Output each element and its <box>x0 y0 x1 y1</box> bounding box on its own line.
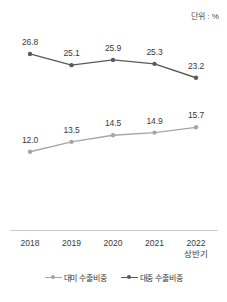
line-marker-icon <box>121 274 138 281</box>
data-point <box>28 52 32 56</box>
x-axis-tick: 2018 <box>21 238 40 249</box>
chart-legend: 대미 수출비중대중 수출비중 <box>0 272 227 283</box>
chart-container: 단위 : % 26.825.125.925.323.2 12.013.514.5… <box>0 0 227 302</box>
data-point <box>152 62 156 66</box>
data-label: 25.3 <box>146 47 162 57</box>
data-label: 26.8 <box>22 37 38 47</box>
data-label: 12.0 <box>22 135 38 145</box>
data-label: 14.9 <box>146 116 162 126</box>
data-point <box>69 140 73 144</box>
legend-item[interactable]: 대중 수출비중 <box>121 272 183 283</box>
x-axis-tick: 2021 <box>145 238 164 249</box>
series-markers-us <box>28 125 198 154</box>
data-point <box>194 76 198 80</box>
x-axis-tick: 2020 <box>104 238 123 249</box>
data-label: 25.9 <box>105 43 121 53</box>
data-point <box>194 125 198 129</box>
data-point <box>69 63 73 67</box>
series-line-us <box>30 127 196 151</box>
series-markers-china <box>28 52 198 80</box>
x-axis-tick-sublabel: 상반기 <box>184 249 208 260</box>
legend-item[interactable]: 대미 수출비중 <box>45 272 107 283</box>
x-axis-tick-label: 2019 <box>62 238 81 248</box>
x-axis-tick-label: 2018 <box>21 238 40 248</box>
data-point <box>152 130 156 134</box>
data-label: 14.5 <box>105 118 121 128</box>
legend-item-label: 대미 수출비중 <box>64 272 107 283</box>
legend-item-label: 대중 수출비중 <box>140 272 183 283</box>
data-label: 13.5 <box>63 125 79 135</box>
series-line-china <box>30 54 196 78</box>
data-label: 15.7 <box>188 110 204 120</box>
x-axis-tick-label: 2021 <box>145 238 164 248</box>
data-label: 23.2 <box>188 61 204 71</box>
data-point <box>111 58 115 62</box>
data-point <box>111 133 115 137</box>
x-axis-line <box>10 230 218 231</box>
data-label: 25.1 <box>63 48 79 58</box>
x-axis-tick: 2022상반기 <box>184 238 208 259</box>
line-marker-icon <box>45 274 62 281</box>
x-axis-tick: 2019 <box>62 238 81 249</box>
x-axis-tick-label: 2020 <box>104 238 123 248</box>
data-point <box>28 150 32 154</box>
x-axis-tick-label: 2022 <box>187 238 206 248</box>
